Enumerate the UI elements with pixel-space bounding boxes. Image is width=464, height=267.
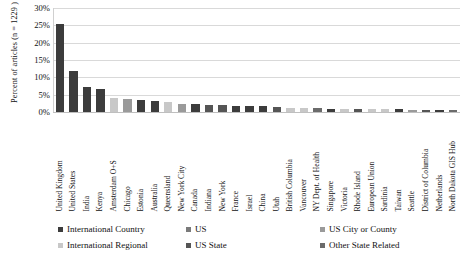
legend-item[interactable]: US [186, 222, 227, 236]
bar[interactable] [381, 109, 389, 112]
legend-item[interactable]: US State [186, 238, 227, 252]
legend-label: US [195, 225, 207, 234]
x-label-slot: Netherlands [433, 114, 447, 214]
x-axis-tick-labels: United KingdomUnited StatesIndiaKenyaAms… [53, 114, 460, 214]
x-label-slot: Chicago [121, 114, 135, 214]
x-axis-tick: European Union [368, 162, 376, 212]
bar-slot [216, 8, 230, 112]
bar[interactable] [273, 107, 281, 112]
legend-item[interactable]: International Country [58, 222, 148, 236]
bar[interactable] [205, 105, 213, 112]
bar-series [53, 8, 460, 112]
bar[interactable] [422, 110, 430, 112]
bar-slot [94, 8, 108, 112]
bar[interactable] [164, 102, 172, 112]
bar[interactable] [96, 89, 104, 112]
bar-slot [229, 8, 243, 112]
x-axis-tick: NY Dept. of Health [314, 152, 322, 212]
y-axis-title: Percent of articles (n = 1229 ) [10, 0, 19, 113]
legend-column-3: US City or CountyOther State Related [320, 222, 399, 254]
legend-label: US City or County [329, 225, 397, 234]
bar[interactable] [259, 106, 267, 112]
legend-swatch-icon [58, 243, 63, 248]
x-axis-tick: New York [219, 181, 227, 212]
bar-slot [311, 8, 325, 112]
x-label-slot: Vancouver [297, 114, 311, 214]
bar[interactable] [327, 109, 335, 112]
bar[interactable] [395, 109, 403, 112]
bar[interactable] [151, 101, 159, 112]
bar[interactable] [110, 98, 118, 112]
x-axis-tick: Sardinia [381, 187, 389, 212]
x-label-slot: Queensland [162, 114, 176, 214]
bar-slot [406, 8, 420, 112]
bar[interactable] [245, 106, 253, 112]
x-axis-tick: United States [70, 171, 78, 212]
y-axis-tick: 20% [34, 38, 50, 47]
legend-swatch-icon [320, 243, 325, 248]
bar[interactable] [286, 108, 294, 113]
bar[interactable] [449, 110, 457, 112]
y-axis-tick: 25% [34, 21, 50, 30]
legend-label: US State [195, 241, 227, 250]
x-axis-tick: Amsterdam O+S [110, 161, 118, 212]
x-axis-tick: Canada [192, 189, 200, 212]
bar[interactable] [408, 110, 416, 112]
x-label-slot: North Dakota GIS Hub [446, 114, 460, 214]
legend-label: International Country [67, 225, 145, 234]
bar[interactable] [123, 99, 131, 112]
x-axis-tick: Rhode Island [354, 172, 362, 212]
bar-slot [134, 8, 148, 112]
legend-item[interactable]: International Regional [58, 238, 148, 252]
x-axis-tick: Indiana [205, 189, 213, 212]
bar[interactable] [354, 109, 362, 112]
x-axis-tick: Utah [273, 197, 281, 212]
bar[interactable] [191, 104, 199, 112]
legend-column-1: International CountryInternational Regio… [58, 222, 148, 254]
bar-slot [365, 8, 379, 112]
x-label-slot: France [229, 114, 243, 214]
x-axis-tick: New York City [178, 166, 186, 212]
bar[interactable] [56, 24, 64, 112]
y-axis-tick: 5% [39, 90, 50, 99]
bar[interactable] [69, 71, 77, 112]
bar-slot [121, 8, 135, 112]
bar[interactable] [340, 109, 348, 112]
bar[interactable] [368, 109, 376, 112]
bar-slot [67, 8, 81, 112]
bar[interactable] [137, 100, 145, 112]
bar[interactable] [435, 110, 443, 112]
y-axis-tick: 0% [39, 108, 50, 117]
x-axis-tick: Chicago [124, 187, 132, 212]
y-axis-tick: 30% [34, 4, 50, 13]
legend-column-2: USUS State [186, 222, 227, 254]
legend-item[interactable]: US City or County [320, 222, 399, 236]
x-axis-tick: Taiwan [395, 190, 403, 212]
x-label-slot: Utah [270, 114, 284, 214]
bar-slot [270, 8, 284, 112]
bar-slot [243, 8, 257, 112]
bar[interactable] [178, 104, 186, 112]
legend-label: International Regional [67, 241, 148, 250]
x-label-slot: Canada [189, 114, 203, 214]
x-label-slot: European Union [365, 114, 379, 214]
bar[interactable] [218, 105, 226, 112]
x-label-slot: Israel [243, 114, 257, 214]
x-axis-tick: Estonia [137, 189, 145, 212]
x-label-slot: New York [216, 114, 230, 214]
bar[interactable] [313, 108, 321, 112]
x-label-slot: Estonia [134, 114, 148, 214]
x-label-slot: China [256, 114, 270, 214]
bar-slot [351, 8, 365, 112]
bar[interactable] [300, 108, 308, 112]
x-axis-tick: United Kingdom [56, 161, 64, 212]
x-axis-tick: Victoria [341, 188, 349, 212]
chart-legend: International CountryInternational Regio… [0, 222, 464, 266]
bar-slot [148, 8, 162, 112]
legend-swatch-icon [186, 227, 191, 232]
legend-item[interactable]: Other State Related [320, 238, 399, 252]
x-axis-tick: British Columbia [287, 159, 295, 212]
x-label-slot: Taiwan [392, 114, 406, 214]
bar[interactable] [83, 87, 91, 112]
bar[interactable] [232, 106, 240, 112]
